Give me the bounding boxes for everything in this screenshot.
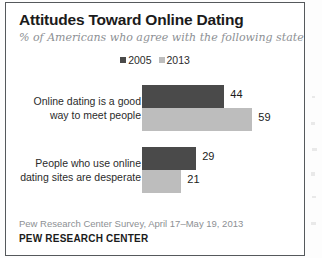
bar-value-2005: 44 [230, 89, 242, 100]
page-artifact [312, 148, 317, 151]
legend-item-2013: 2013 [159, 55, 190, 66]
bar-value-2013: 21 [187, 174, 199, 185]
legend-label-2013: 2013 [167, 55, 190, 66]
bar-value-2005: 29 [202, 151, 214, 162]
chart-subtitle: % of Americans who agree with the follow… [19, 31, 305, 44]
bar-2005 [142, 147, 196, 170]
chart-figure: Attitudes Toward Online Dating % of Amer… [5, 2, 305, 256]
chart-source-note: Pew Research Center Survey, April 17–May… [19, 218, 243, 229]
category-label-line: dating sites are desperate [16, 171, 141, 185]
bar-value-2013: 59 [258, 112, 270, 123]
legend-label-2005: 2005 [128, 55, 151, 66]
page-artifact [311, 172, 315, 176]
category-label: People who use online dating sites are d… [16, 157, 141, 184]
chart-legend: 2005 2013 [6, 55, 304, 66]
category-label-line: People who use online [16, 157, 141, 171]
bar-2013 [142, 170, 181, 193]
page-artifact [311, 122, 315, 125]
bar-2013 [142, 108, 252, 131]
category-label-line: way to meet people [16, 109, 141, 123]
legend-item-2005: 2005 [120, 55, 151, 66]
chart-title: Attitudes Toward Online Dating [19, 11, 244, 29]
page-artifact [311, 222, 316, 225]
page-artifact [312, 196, 316, 198]
category-label-line: Online dating is a good [16, 95, 141, 109]
page-artifact [312, 96, 315, 98]
chart-brand-label: PEW RESEARCH CENTER [19, 233, 148, 244]
category-label: Online dating is a good way to meet peop… [16, 95, 141, 122]
chart-plot-area: Online dating is a good way to meet peop… [6, 77, 305, 207]
legend-swatch-2013 [159, 57, 165, 63]
bar-2005 [142, 85, 224, 108]
legend-swatch-2005 [120, 57, 126, 63]
